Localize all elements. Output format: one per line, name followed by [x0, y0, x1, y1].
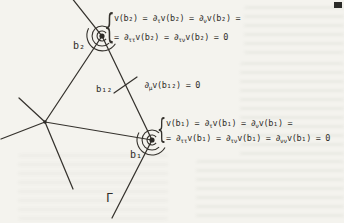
- b2-conditions-line2: = ∂ττv(b₂) = ∂τνv(b₂) = 0: [114, 29, 240, 48]
- b1-boundary-conditions: v(b₁) = ∂τv(b₁) = ∂νv(b₁) = = ∂ττv(b₁) =…: [166, 117, 330, 146]
- scanned-figure-page: { v(b₂) = ∂τv(b₂) = ∂νv(b₂) = = ∂ττv(b₂)…: [0, 0, 344, 223]
- b2-boundary-conditions: v(b₂) = ∂τv(b₂) = ∂νv(b₂) = = ∂ττv(b₂) =…: [114, 10, 240, 48]
- b1-conditions-line2: = ∂ττv(b₁) = ∂τνv(b₁) = ∂ννv(b₁) = 0: [166, 132, 330, 147]
- b1-conditions-line1: v(b₁) = ∂τv(b₁) = ∂νv(b₁) =: [166, 117, 330, 132]
- vertex-dot-b1: [149, 137, 154, 142]
- interior-edge-left: [1, 122, 45, 139]
- vertex-label-b2: b₂: [73, 40, 85, 51]
- midpoint-normal-tick-icon: [114, 77, 137, 93]
- b2-conditions-line1: v(b₂) = ∂τv(b₂) = ∂νv(b₂) =: [114, 10, 240, 29]
- vertex-label-b1: b₁: [130, 149, 142, 160]
- interior-edge-downright: [45, 122, 73, 189]
- midpoint-label-b12: b₁₂: [96, 84, 112, 94]
- edge-midpoint-condition: ∂μv(b₁₂) = 0: [144, 77, 200, 96]
- interior-edge-to-b1: [45, 122, 152, 140]
- interior-vertex-dot: [43, 120, 46, 123]
- interior-edge-upleft: [19, 98, 45, 122]
- boundary-label-gamma: Γ: [106, 191, 113, 205]
- b1-equation-brace: {: [157, 115, 166, 144]
- scan-artifact-square: [334, 2, 342, 8]
